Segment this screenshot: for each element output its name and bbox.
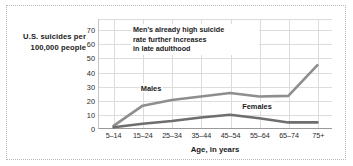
y-axis-title-line-2: 100,000 people <box>12 43 86 54</box>
y-tick-label-0: 0 <box>91 125 95 134</box>
y-tick-label-20: 20 <box>87 96 95 105</box>
x-tick-label-65-74: 65–74 <box>279 131 299 140</box>
y-tick-label-60: 60 <box>87 40 95 49</box>
chart-annotation: Men's already high suicide rate further … <box>131 24 259 55</box>
series-label-males: Males <box>140 84 163 93</box>
x-tick-label-55-64: 55–64 <box>250 131 270 140</box>
y-tick-label-50: 50 <box>87 54 95 63</box>
series-label-females: Females <box>241 102 273 111</box>
x-tick-label-35-44: 35–44 <box>191 131 211 140</box>
x-tick-label-15-24: 15–24 <box>133 131 153 140</box>
chart-figure: U.S. suicides per 100,000 people 70 60 5… <box>0 0 353 166</box>
y-tick-label-10: 10 <box>87 110 95 119</box>
plot-area: 70 60 50 40 30 20 10 0 5–14 15–24 25–34 … <box>98 19 332 129</box>
x-tick-label-5-14: 5–14 <box>106 131 122 140</box>
annotation-line-2: rate further increases <box>133 35 257 45</box>
x-tick-label-45-54: 45–54 <box>221 131 241 140</box>
x-tick-label-25-34: 25–34 <box>162 131 182 140</box>
x-axis-title: Age, in years <box>98 145 332 154</box>
annotation-line-3: in late adulthood <box>133 44 257 54</box>
y-axis-title: U.S. suicides per 100,000 people <box>12 32 86 53</box>
series-line-females <box>114 115 318 128</box>
y-tick-label-30: 30 <box>87 82 95 91</box>
y-tick-label-70: 70 <box>87 26 95 35</box>
y-axis-title-line-1: U.S. suicides per <box>12 32 86 43</box>
x-tick-label-75plus: 75+ <box>312 131 324 140</box>
y-tick-label-40: 40 <box>87 68 95 77</box>
annotation-line-1: Men's already high suicide <box>133 25 257 35</box>
